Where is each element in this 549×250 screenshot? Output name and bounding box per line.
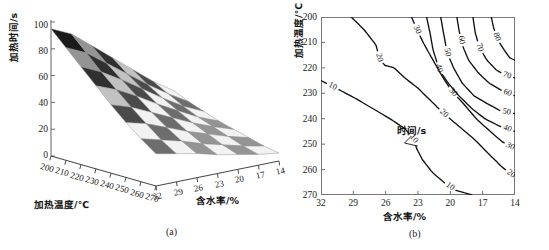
contour-line — [420, 36, 449, 87]
panel-a-y-tick: 29 — [173, 186, 184, 198]
contour-label: 10 — [327, 80, 339, 92]
contour-label: 30 — [412, 24, 424, 35]
contour-label: 60 — [456, 35, 467, 45]
contour-line — [500, 43, 515, 60]
panel-b-x-tick: 32 — [310, 198, 332, 208]
contour-label: 40 — [434, 63, 445, 74]
contour-line — [441, 17, 446, 46]
contour-line — [449, 118, 505, 170]
contour-label: 10 — [444, 180, 456, 192]
contour-label: 30 — [447, 86, 459, 98]
panel-b-x-tick: 20 — [439, 198, 461, 208]
contour-line — [351, 17, 377, 51]
contour-line — [427, 17, 437, 62]
contour-line — [456, 190, 472, 195]
panel-a-y-tick: 23 — [214, 178, 225, 190]
contour-line — [321, 81, 326, 84]
contour-line — [412, 17, 415, 23]
panel-b-x-tick: 14 — [504, 198, 526, 208]
contour-line — [442, 75, 500, 127]
contour-label: 70 — [474, 42, 485, 53]
contour-label: 30 — [505, 140, 515, 152]
contour-label: 20 — [505, 167, 515, 179]
panel-b-caption: (b) — [409, 228, 421, 239]
panel-b-contour-lines: 101010202020303030404050506060707080 时间/… — [321, 17, 515, 195]
contour-label: 50 — [502, 106, 512, 116]
panel-a-caption: (a) — [166, 226, 177, 237]
panel-b-x-tick: 29 — [342, 198, 364, 208]
contour-label: 60 — [502, 87, 513, 98]
panel-b-x-tick: 26 — [375, 198, 397, 208]
contour-label: 40 — [502, 123, 513, 134]
panel-b-y-tick: 200 — [291, 12, 317, 22]
contour-line — [483, 54, 501, 73]
contour-label: 80 — [492, 31, 503, 42]
panel-b-y-axis-label: 加热温度/℃ — [291, 0, 305, 58]
contour-label: 20 — [438, 107, 450, 119]
figure-container: 加热时间/s 100 80 60 40 20 0 — [0, 0, 549, 250]
panel-b-y-tick: 230 — [291, 88, 317, 98]
panel-b-x-tick: 23 — [407, 198, 429, 208]
contour-line — [473, 17, 478, 41]
panel-a-surface-plot: 加热时间/s 100 80 60 40 20 0 — [0, 0, 285, 250]
annotation-label: 时间/s — [397, 125, 426, 136]
panel-a-y-axis-label: 含水率/% — [196, 196, 239, 206]
contour-label: 70 — [502, 70, 513, 81]
panel-b-y-tick: 260 — [291, 165, 317, 175]
panel-a-y-tick: 26 — [193, 182, 204, 194]
contour-label: 20 — [374, 52, 385, 62]
contour-line — [416, 146, 445, 183]
panel-b-y-tick: 240 — [291, 114, 317, 124]
panel-b-contour-plot: 加热温度/℃ 200210220230240250260270 32292623… — [285, 0, 549, 250]
contour-line — [383, 63, 439, 108]
contour-line — [458, 98, 505, 143]
contour-label: 50 — [442, 47, 452, 57]
panel-b-y-tick: 210 — [291, 37, 317, 47]
panel-b-y-tick: 250 — [291, 139, 317, 149]
contour-line — [457, 17, 460, 33]
panel-b-y-tick: 220 — [291, 63, 317, 73]
panel-b-x-axis-label: 含水率/% — [383, 212, 426, 222]
panel-a-y-tick: 32 — [152, 190, 163, 202]
panel-b-x-tick: 17 — [472, 198, 494, 208]
panel-a-y-tick: 17 — [255, 169, 266, 181]
panel-a-x-axis-label: 加热温度/℃ — [34, 200, 89, 210]
contour-line — [491, 17, 494, 30]
